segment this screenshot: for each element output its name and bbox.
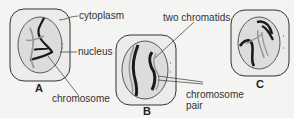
caption-c: C: [256, 79, 264, 90]
caption-b: B: [143, 106, 151, 117]
cell-c: [231, 10, 289, 76]
label-chromosome-pair-1: chromosome: [186, 90, 244, 100]
label-chromosome-pair-2: pair: [186, 101, 203, 111]
label-cytoplasm: cytoplasm: [79, 11, 124, 21]
cell-a: [10, 9, 79, 96]
caption-a: A: [35, 83, 43, 94]
label-two-chromatids: two chromatids: [163, 13, 230, 23]
label-chromosome: chromosome: [52, 94, 110, 104]
label-nucleus: nucleus: [78, 47, 112, 57]
cell-diagram: [0, 0, 294, 118]
